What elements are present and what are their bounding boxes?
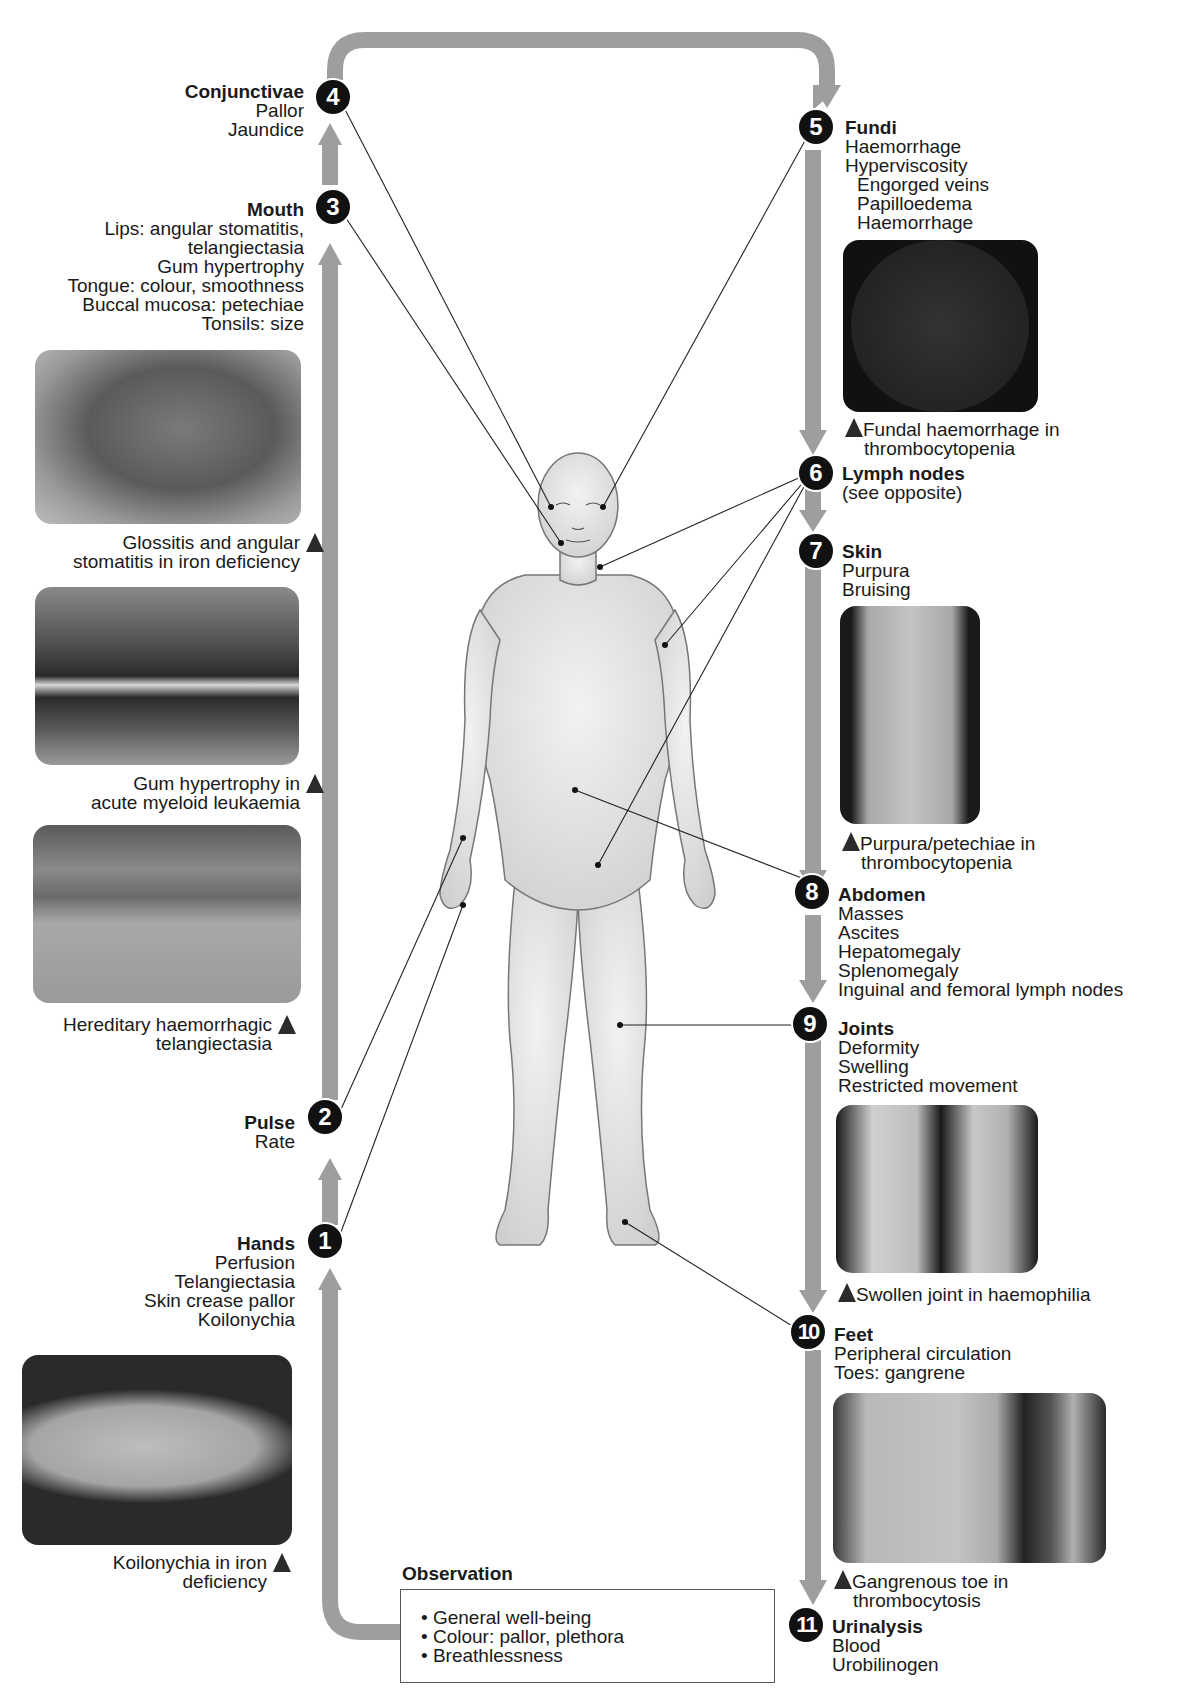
caption-line: telangiectasia <box>63 1034 272 1053</box>
section-urinalysis: Urinalysis Blood Urobilinogen <box>832 1617 939 1674</box>
section-item: Ascites <box>838 923 1123 942</box>
knee-photo-caption: Swollen joint in haemophilia <box>838 1283 1090 1304</box>
section-item: Jaundice <box>185 120 304 139</box>
caption-line: thrombocytopenia <box>842 853 1035 872</box>
section-item: Purpura <box>842 561 911 580</box>
lips-photo-caption: Hereditary haemorrhagic telangiectasia <box>63 1015 272 1053</box>
pointer-triangle-icon <box>845 418 863 437</box>
section-title: Mouth <box>67 200 304 219</box>
section-subitem: Engorged veins <box>845 175 989 194</box>
fundus-photo-caption: Fundal haemorrhage in thrombocytopenia <box>845 418 1059 458</box>
section-item: Hepatomegaly <box>838 942 1123 961</box>
caption-line: Fundal haemorrhage in <box>845 418 1059 439</box>
section-item: Gum hypertrophy <box>67 257 304 276</box>
section-item: Koilonychia <box>144 1310 295 1329</box>
observation-item: Breathlessness <box>421 1646 774 1665</box>
section-item: Deformity <box>838 1038 1018 1057</box>
step-badge-5: 5 <box>797 108 835 146</box>
caption-line: Koilonychia in iron <box>113 1553 267 1572</box>
section-abdomen: Abdomen Masses Ascites Hepatomegaly Sple… <box>838 885 1123 999</box>
section-item: Hyperviscosity <box>845 156 989 175</box>
section-title: Skin <box>842 542 911 561</box>
pointer-triangle-icon <box>278 1015 296 1034</box>
section-title: Conjunctivae <box>185 82 304 101</box>
caption-line: thrombocytosis <box>834 1591 1008 1610</box>
section-item: Urobilinogen <box>832 1655 939 1674</box>
step-badge-2: 2 <box>306 1098 344 1136</box>
section-item: Inguinal and femoral lymph nodes <box>838 980 1123 999</box>
observation-item: General well-being <box>421 1608 774 1627</box>
leg-purpura-photo <box>840 606 980 824</box>
step-badge-9: 9 <box>791 1005 829 1043</box>
section-item: Skin crease pallor <box>144 1291 295 1310</box>
section-title: Abdomen <box>838 885 1123 904</box>
step-badge-4: 4 <box>314 78 352 116</box>
section-item: Perfusion <box>144 1253 295 1272</box>
section-item: telangiectasia <box>67 238 304 257</box>
section-item: Masses <box>838 904 1123 923</box>
section-item: Bruising <box>842 580 911 599</box>
section-subitem: Haemorrhage <box>845 213 989 232</box>
section-title: Pulse <box>244 1113 295 1132</box>
section-item: Pallor <box>185 101 304 120</box>
caption-line: Purpura/petechiae in <box>842 832 1035 853</box>
swollen-knee-photo <box>836 1105 1038 1273</box>
section-subitem: Papilloedema <box>845 194 989 213</box>
step-badge-6: 6 <box>797 454 835 492</box>
pointer-triangle-icon <box>838 1283 856 1302</box>
pointer-triangle-icon <box>834 1570 852 1589</box>
caption-line: Swollen joint in haemophilia <box>838 1283 1090 1304</box>
section-title: Urinalysis <box>832 1617 939 1636</box>
step-badge-11: 11 <box>787 1606 825 1644</box>
step-badge-8: 8 <box>793 873 831 911</box>
section-item: Tonsils: size <box>67 314 304 333</box>
pointer-triangle-icon <box>306 774 324 793</box>
section-title: Lymph nodes <box>842 464 965 483</box>
gums-photo <box>35 587 299 765</box>
section-item: Telangiectasia <box>144 1272 295 1291</box>
section-item: Swelling <box>838 1057 1018 1076</box>
section-item: Restricted movement <box>838 1076 1018 1095</box>
gangrenous-toe-photo <box>833 1393 1106 1563</box>
section-title: Feet <box>834 1325 1011 1344</box>
section-skin: Skin Purpura Bruising <box>842 542 911 599</box>
caption-line: Glossitis and angular <box>73 533 300 552</box>
fundus-photo <box>843 240 1038 412</box>
toe-photo-caption: Gangrenous toe in thrombocytosis <box>834 1570 1008 1610</box>
step-badge-1: 1 <box>306 1222 344 1260</box>
gums-photo-caption: Gum hypertrophy in acute myeloid leukaem… <box>91 774 300 812</box>
caption-line: acute myeloid leukaemia <box>91 793 300 812</box>
observation-title: Observation <box>402 1563 513 1585</box>
section-title: Joints <box>838 1019 1018 1038</box>
step-badge-10: 10 <box>789 1313 827 1351</box>
observation-box: General well-being Colour: pallor, pleth… <box>400 1589 775 1683</box>
tongue-photo-caption: Glossitis and angular stomatitis in iron… <box>73 533 300 571</box>
caption-line: stomatitis in iron deficiency <box>73 552 300 571</box>
leg-photo-caption: Purpura/petechiae in thrombocytopenia <box>842 832 1035 872</box>
caption-line: deficiency <box>113 1572 267 1591</box>
section-fundi: Fundi Haemorrhage Hyperviscosity Engorge… <box>845 118 989 232</box>
caption-line: thrombocytopenia <box>845 439 1059 458</box>
step-badge-3: 3 <box>314 188 352 226</box>
section-item: Rate <box>244 1132 295 1151</box>
section-item: Toes: gangrene <box>834 1363 1011 1382</box>
section-joints: Joints Deformity Swelling Restricted mov… <box>838 1019 1018 1095</box>
section-lymph-nodes: Lymph nodes (see opposite) <box>842 464 965 502</box>
section-feet: Feet Peripheral circulation Toes: gangre… <box>834 1325 1011 1382</box>
section-title: Hands <box>144 1234 295 1253</box>
pointer-triangle-icon <box>306 533 324 552</box>
section-item: Buccal mucosa: petechiae <box>67 295 304 314</box>
observation-item: Colour: pallor, plethora <box>421 1627 774 1646</box>
pointer-triangle-icon <box>842 832 860 851</box>
caption-line: Gum hypertrophy in <box>91 774 300 793</box>
lips-photo <box>33 825 301 1003</box>
section-title: Fundi <box>845 118 989 137</box>
caption-line: Hereditary haemorrhagic <box>63 1015 272 1034</box>
step-badge-7: 7 <box>797 532 835 570</box>
section-conjunctivae: Conjunctivae Pallor Jaundice <box>185 82 304 139</box>
section-item: Tongue: colour, smoothness <box>67 276 304 295</box>
body-figure <box>440 453 715 1245</box>
section-item: Haemorrhage <box>845 137 989 156</box>
tongue-photo <box>35 350 301 524</box>
section-item: Blood <box>832 1636 939 1655</box>
